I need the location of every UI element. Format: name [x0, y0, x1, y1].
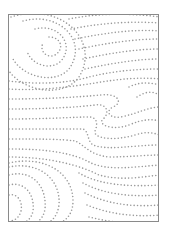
- knot-top-left: [9, 15, 85, 90]
- pattern-frame: [8, 14, 159, 222]
- wood-grain-illustration: [0, 0, 171, 236]
- middle-grain: [9, 83, 159, 157]
- lower-grain: [9, 149, 159, 222]
- wood-grain-dots: [9, 15, 159, 222]
- upper-grain: [9, 15, 159, 90]
- knot-bottom-left: [9, 161, 73, 222]
